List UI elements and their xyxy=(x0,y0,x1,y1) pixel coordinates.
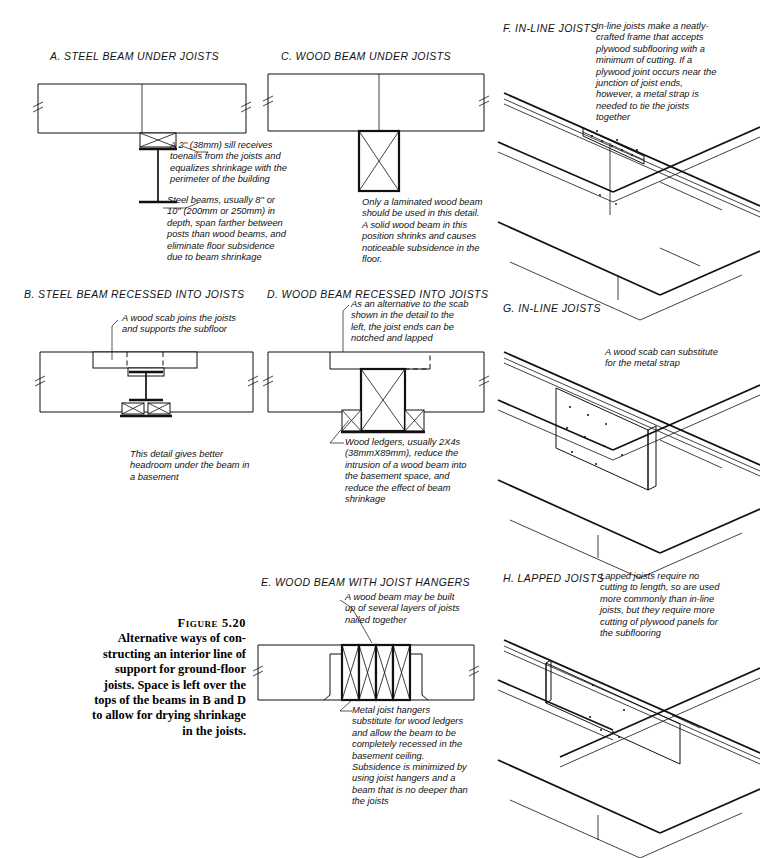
figure-caption-line-2: structing an interior line of xyxy=(46,647,246,662)
figure-caption-line-5: tops of the beams in B and D xyxy=(46,693,246,708)
figure-caption-line-7: in the joists. xyxy=(46,724,246,739)
iso-joists-h xyxy=(498,668,760,858)
figure-caption-line-1: Alternative ways of con- xyxy=(46,631,246,646)
figure-number: Figure 5.20 xyxy=(46,616,246,631)
figure-caption-line-6: to allow for drying shrinkage xyxy=(46,708,246,723)
figure-caption: Figure 5.20 Alternative ways of con- str… xyxy=(46,616,246,739)
figure-caption-line-3: support for ground-floor xyxy=(46,662,246,677)
figure-caption-line-4: joists. Space is left over the xyxy=(46,678,246,693)
figure-page: A. STEEL BEAM UNDER JOISTS xyxy=(0,0,760,858)
